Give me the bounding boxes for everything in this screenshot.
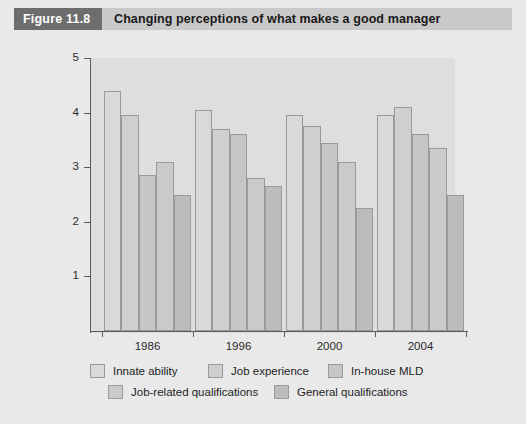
figure-header: Figure 11.8 Changing perceptions of what…	[14, 8, 512, 30]
y-axis-line	[90, 58, 91, 333]
y-axis-tick: 5	[84, 58, 91, 59]
y-axis-tick-label: 5	[73, 51, 79, 63]
y-axis-tick-label: 2	[73, 215, 79, 227]
legend-swatch-icon	[108, 385, 123, 399]
y-axis-tick: 1	[84, 276, 91, 277]
legend-label: Job-related qualifications	[131, 386, 258, 398]
figure-number-badge: Figure 11.8	[14, 8, 102, 30]
bar	[174, 195, 191, 332]
x-axis-group-label: 2000	[317, 340, 343, 352]
x-axis-group-label: 1996	[226, 340, 252, 352]
figure-container: Figure 11.8 Changing perceptions of what…	[0, 0, 526, 424]
bar	[212, 129, 229, 331]
legend-item[interactable]: In-house MLD	[328, 364, 423, 378]
legend-label: Innate ability	[113, 365, 178, 377]
bar	[104, 91, 121, 331]
chart-legend: Innate abilityJob experienceIn-house MLD…	[90, 360, 490, 402]
bar	[356, 208, 373, 331]
bar	[286, 115, 303, 331]
legend-item[interactable]: Job experience	[208, 364, 309, 378]
bar	[429, 148, 446, 331]
y-axis-tick-label: 1	[73, 269, 79, 281]
x-axis-tick	[102, 331, 103, 337]
legend-item[interactable]: Innate ability	[90, 364, 178, 378]
x-axis-group-label: 1986	[135, 340, 161, 352]
bar	[139, 175, 156, 331]
x-axis-line	[90, 331, 468, 332]
bar	[338, 162, 355, 331]
bar	[265, 186, 282, 331]
legend-row: Innate abilityJob experienceIn-house MLD	[90, 360, 490, 381]
chart-area: 12345 1986199620002004 Innate abilityJob…	[14, 38, 512, 410]
y-axis-tick: 4	[84, 113, 91, 114]
y-axis-tick: 2	[84, 222, 91, 223]
legend-swatch-icon	[274, 385, 289, 399]
x-axis-tick	[375, 331, 376, 337]
legend-swatch-icon	[90, 364, 105, 378]
bar	[195, 110, 212, 331]
bar	[247, 178, 264, 331]
legend-label: Job experience	[231, 365, 309, 377]
legend-row: Job-related qualificationsGeneral qualif…	[90, 381, 490, 402]
legend-swatch-icon	[208, 364, 223, 378]
y-axis-tick-label: 3	[73, 160, 79, 172]
legend-swatch-icon	[328, 364, 343, 378]
bar	[412, 134, 429, 331]
bar	[303, 126, 320, 331]
bar	[394, 107, 411, 331]
legend-item[interactable]: General qualifications	[274, 385, 408, 399]
x-axis-group-label: 2004	[408, 340, 434, 352]
bar	[230, 134, 247, 331]
y-axis-tick-label: 4	[73, 106, 79, 118]
bar	[156, 162, 173, 331]
bar	[447, 195, 464, 332]
legend-label: In-house MLD	[351, 365, 423, 377]
x-axis-tick	[466, 331, 467, 337]
figure-title: Changing perceptions of what makes a goo…	[102, 8, 512, 30]
legend-label: General qualifications	[297, 386, 408, 398]
x-axis-tick	[193, 331, 194, 337]
bar	[377, 115, 394, 331]
x-axis-tick	[284, 331, 285, 337]
legend-item[interactable]: Job-related qualifications	[108, 385, 258, 399]
bar	[321, 143, 338, 331]
y-axis-tick: 3	[84, 167, 91, 168]
bar	[121, 115, 138, 331]
